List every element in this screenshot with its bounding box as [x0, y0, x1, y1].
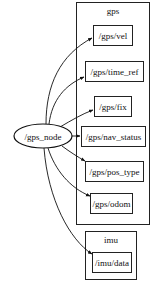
svg-text:/gps/vel: /gps/vel — [99, 31, 128, 41]
topic-gps-pos-type[interactable]: /gps/pos_type — [86, 162, 144, 182]
topic-imu-data[interactable]: /imu/data — [93, 253, 132, 273]
svg-text:/gps/time_ref: /gps/time_ref — [91, 67, 139, 77]
topic-gps-fix[interactable]: /gps/fix — [95, 97, 132, 117]
svg-text:/imu/data: /imu/data — [95, 258, 129, 268]
topic-gps-odom[interactable]: /gps/odom — [91, 194, 133, 214]
cluster-imu-label: imu — [104, 235, 119, 245]
ros-graph: gps imu /gps/vel /gps/time_ref /gps/fix … — [0, 0, 157, 282]
topic-gps-time-ref[interactable]: /gps/time_ref — [86, 62, 144, 82]
topic-gps-nav-status[interactable]: /gps/nav_status — [82, 127, 146, 147]
topic-gps-vel[interactable]: /gps/vel — [94, 26, 133, 46]
svg-text:/gps/pos_type: /gps/pos_type — [89, 167, 139, 177]
edge-to-gps-odom — [48, 148, 90, 196]
node-gps-node[interactable]: /gps_node — [14, 124, 72, 148]
svg-text:/gps/nav_status: /gps/nav_status — [86, 132, 142, 142]
cluster-gps-label: gps — [107, 6, 120, 16]
svg-text:/gps/fix: /gps/fix — [99, 102, 127, 112]
edge-to-gps-pos-type — [62, 146, 85, 161]
svg-text:/gps_node: /gps_node — [25, 132, 62, 142]
edge-to-imu-data — [44, 148, 92, 254]
svg-text:/gps/odom: /gps/odom — [92, 199, 130, 209]
